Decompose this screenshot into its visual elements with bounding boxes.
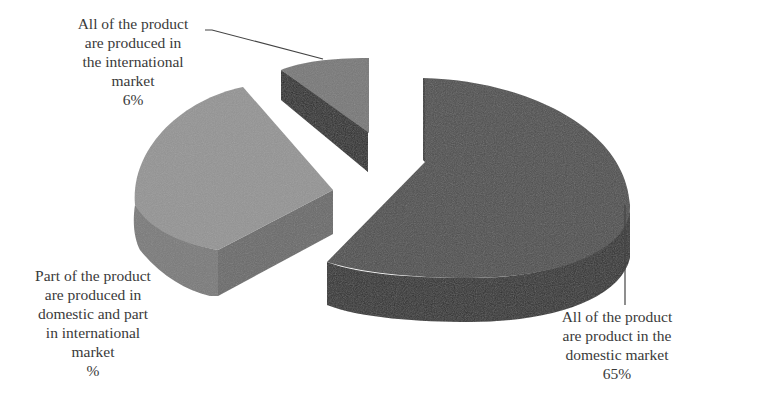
data-label-intl: All of the product are produced in the i… (58, 14, 208, 109)
data-label-domestic: All of the product are product in the do… (542, 307, 692, 383)
data-label-mixed: Part of the product are produced in dome… (18, 266, 168, 380)
leader-line-intl (205, 30, 323, 59)
percent-mixed: % (18, 361, 168, 380)
percent-intl: 6% (58, 90, 208, 109)
slice-mixed (134, 87, 333, 296)
percent-domestic: 65% (542, 364, 692, 383)
slice-domestic-top (327, 78, 630, 278)
slice-domestic (327, 78, 630, 322)
